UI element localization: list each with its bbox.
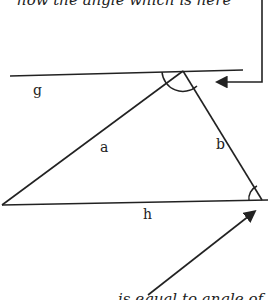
angle-arc-right bbox=[249, 186, 257, 201]
label-h: h bbox=[143, 206, 152, 222]
line-h bbox=[2, 200, 268, 205]
label-g: g bbox=[33, 82, 42, 98]
label-b: b bbox=[216, 136, 225, 152]
caption-bottom: is equal to angle of h ... the same angl… bbox=[118, 290, 268, 300]
side-a bbox=[2, 71, 183, 205]
line-g bbox=[10, 70, 243, 76]
label-a: a bbox=[100, 139, 108, 155]
triangle-diagram bbox=[0, 0, 268, 300]
arrow-bottom bbox=[148, 212, 254, 295]
